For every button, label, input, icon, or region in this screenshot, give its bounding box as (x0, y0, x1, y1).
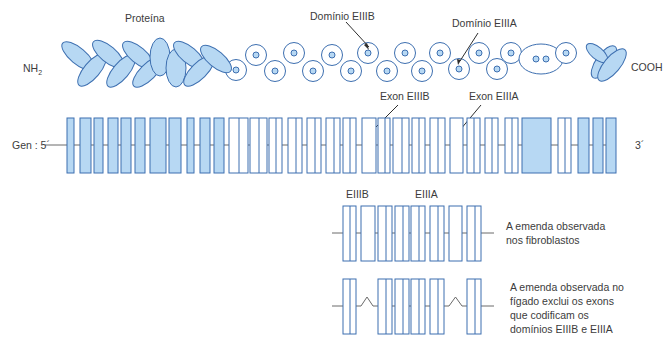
domain-module (556, 43, 577, 64)
exon (121, 118, 131, 173)
gene-exon-map (45, 118, 616, 173)
exon (343, 279, 356, 334)
exon (395, 206, 409, 261)
liver-splice-variant (332, 279, 494, 334)
nh2-terminus-label: NH2 (23, 62, 42, 78)
domain-module (246, 45, 267, 66)
exon (229, 118, 248, 173)
exon-eiiia-label: Exon EIIIA (469, 90, 519, 103)
fibroblast-splice-variant (332, 206, 494, 261)
protein-chain (58, 36, 631, 92)
exon (395, 279, 409, 334)
exon (269, 118, 282, 173)
liver-caption-line: fígado exclui os exons (510, 295, 667, 309)
exon (361, 206, 375, 261)
domain-module (303, 61, 324, 82)
exon (80, 118, 91, 173)
exon (449, 206, 462, 261)
liver-caption-line: A emenda observada no (510, 281, 667, 295)
domain-module (265, 61, 286, 82)
exon (485, 118, 498, 173)
fibroblast-caption-line: nos fibroblastos (506, 234, 667, 248)
exon (214, 118, 224, 173)
exon (467, 118, 480, 173)
exon (411, 279, 425, 334)
exon (378, 279, 392, 334)
exon (505, 118, 518, 173)
exon (430, 206, 444, 261)
exon (606, 118, 616, 173)
gene-3prime-label: 3´ (635, 139, 644, 152)
domain-module (412, 61, 433, 82)
exon (169, 118, 181, 173)
exon (558, 118, 571, 173)
gene-5prime-label: Gen : 5´ (12, 139, 50, 152)
domain-module (341, 61, 362, 82)
domain-eiiib-label: Domínio EIIIB (310, 10, 375, 23)
exon (343, 118, 356, 173)
exon (362, 118, 376, 173)
domain-eiiia-label: Domínio EIIIA (452, 17, 517, 30)
exon (593, 118, 603, 173)
domain-module (469, 43, 490, 64)
exon (467, 206, 481, 261)
exon (150, 118, 166, 173)
exon (411, 206, 425, 261)
exon (108, 118, 118, 173)
exon (326, 118, 340, 173)
liver-caption-line: domínios EIIIB e EIIIA (510, 323, 667, 337)
liver-caption: A emenda observada no fígado exclui os e… (510, 281, 667, 336)
protein-label: Proteína (125, 12, 165, 25)
cooh-terminus-label: COOH (631, 61, 663, 74)
exon (200, 118, 210, 173)
domain-module (395, 43, 416, 64)
exon-eiiib-label: Exon EIIIB (380, 90, 430, 103)
exon (412, 118, 425, 173)
domain-module (377, 61, 398, 82)
exon (307, 118, 321, 173)
exon (343, 206, 356, 261)
domain-module (322, 45, 343, 66)
splice-eiiia-label: EIIIA (415, 188, 438, 201)
domain-module (430, 43, 451, 64)
exon (288, 118, 302, 173)
exon (393, 118, 409, 173)
exon (430, 118, 445, 173)
splice-eiiib-label: EIIIB (346, 188, 369, 201)
exon (467, 279, 481, 334)
fibroblast-caption: A emenda observada nos fibroblastos (506, 220, 667, 248)
exon (67, 118, 74, 173)
exon (430, 279, 444, 334)
exon (135, 118, 145, 173)
exon (378, 206, 392, 261)
exon (250, 118, 267, 173)
domain-module (284, 43, 305, 64)
exon (578, 118, 589, 173)
fibroblast-caption-line: A emenda observada (506, 220, 667, 234)
exon (522, 118, 551, 173)
domain-module (501, 43, 522, 64)
exon (94, 118, 103, 173)
exon (187, 118, 194, 173)
exon (378, 118, 390, 173)
arrow-domain-eiiib (346, 22, 369, 50)
exon (450, 118, 463, 173)
liver-caption-line: que codificam os (510, 309, 667, 323)
